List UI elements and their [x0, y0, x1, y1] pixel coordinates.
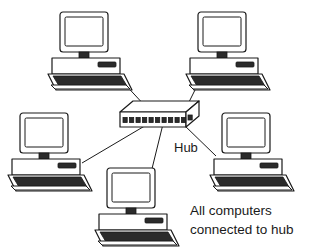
keyboard-icon — [95, 230, 179, 246]
keyboard-icon — [8, 175, 92, 191]
caption: All computers connected to hub — [190, 203, 294, 237]
monitor-icon — [20, 113, 68, 159]
caption-line-2: connected to hub — [190, 222, 294, 237]
monitor-icon — [60, 12, 108, 58]
monitor-icon — [107, 168, 155, 214]
hub-device[interactable] — [120, 101, 199, 127]
system-unit-icon — [190, 58, 258, 74]
system-unit-icon — [214, 159, 282, 175]
keyboard-icon — [210, 175, 294, 191]
network-diagram: Hub All computers connected to hub — [0, 0, 310, 247]
hub-label: Hub — [174, 140, 198, 155]
computer-bottom[interactable] — [95, 168, 179, 246]
keyboard-icon — [48, 74, 132, 90]
caption-line-1: All computers — [190, 203, 272, 218]
system-unit-icon — [12, 159, 80, 175]
system-unit-icon — [99, 214, 167, 230]
computer-right[interactable] — [210, 113, 294, 191]
system-unit-icon — [52, 58, 120, 74]
computer-left[interactable] — [8, 113, 92, 191]
computer-top-right[interactable] — [186, 12, 270, 90]
link-left — [82, 124, 148, 163]
network-topology-canvas: Hub All computers connected to hub — [0, 0, 310, 247]
monitor-icon — [222, 113, 270, 159]
computer-top-left[interactable] — [48, 12, 132, 90]
keyboard-icon — [186, 74, 270, 90]
monitor-icon — [198, 12, 246, 58]
